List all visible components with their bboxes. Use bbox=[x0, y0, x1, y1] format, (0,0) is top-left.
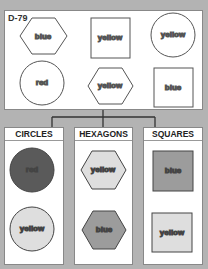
svg-text:yellow: yellow bbox=[98, 33, 123, 42]
svg-text:yellow: yellow bbox=[98, 81, 123, 90]
circle-shape: red bbox=[20, 61, 64, 105]
svg-text:blue: blue bbox=[35, 32, 52, 41]
circle-shape-yellow: yellow bbox=[10, 207, 54, 251]
shapes-layer: blue yellow yellow red yellow blue red bbox=[0, 0, 208, 269]
square-shape: yellow bbox=[91, 18, 130, 58]
hexagon-shape: yellow bbox=[88, 68, 133, 104]
svg-text:blue: blue bbox=[165, 166, 182, 175]
circle-shape-red: red bbox=[10, 148, 54, 192]
hexagon-shape-yellow: yellow bbox=[81, 151, 126, 189]
hexagon-shape: blue bbox=[20, 18, 67, 54]
hexagon-shape-blue: blue bbox=[82, 211, 126, 249]
square-shape: blue bbox=[154, 68, 193, 107]
square-shape-yellow: yellow bbox=[152, 213, 192, 252]
svg-text:blue: blue bbox=[96, 225, 113, 234]
svg-text:yellow: yellow bbox=[160, 228, 185, 237]
svg-text:yellow: yellow bbox=[91, 165, 116, 174]
svg-text:yellow: yellow bbox=[161, 30, 186, 39]
svg-text:red: red bbox=[36, 78, 49, 87]
connector-tree bbox=[52, 110, 155, 127]
square-shape-blue: blue bbox=[153, 151, 193, 191]
svg-text:blue: blue bbox=[165, 83, 182, 92]
svg-text:yellow: yellow bbox=[20, 224, 45, 233]
svg-text:red: red bbox=[26, 165, 39, 174]
circle-shape: yellow bbox=[151, 13, 195, 57]
